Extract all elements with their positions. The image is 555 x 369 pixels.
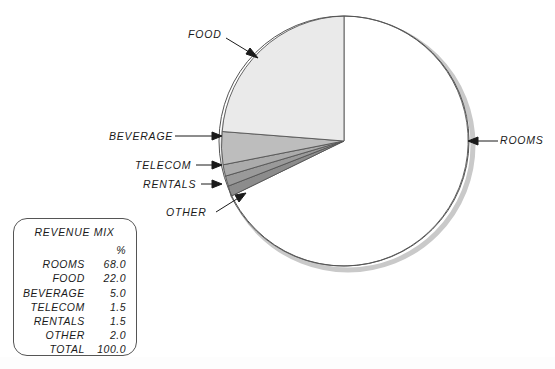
legend-header-blank [23, 243, 94, 258]
callout-label-other: OTHER [166, 206, 207, 218]
rentals-arrowhead [212, 180, 222, 188]
legend-row: RENTALS1.5 [23, 315, 126, 329]
legend-row: BEVERAGE5.0 [23, 286, 126, 300]
legend-value-total: 100.0 [94, 343, 126, 357]
pie-slice-food[interactable] [222, 16, 344, 141]
legend-row: FOOD22.0 [23, 272, 126, 286]
legend-label-food: FOOD [23, 272, 94, 286]
legend-label-rentals: RENTALS [23, 315, 94, 329]
legend-table: % ROOMS68.0FOOD22.0BEVERAGE5.0TELECOM1.5… [23, 243, 126, 357]
bottom-edge-artifact [0, 357, 555, 369]
legend-label-rooms: ROOMS [23, 258, 94, 272]
pie-slice-group [221, 16, 468, 266]
legend-label-total: TOTAL [23, 343, 94, 357]
legend-header-percent: % [94, 243, 126, 258]
legend-value-rentals: 1.5 [94, 315, 126, 329]
legend-label-beverage: BEVERAGE [23, 286, 94, 300]
callout-label-food: FOOD [188, 28, 222, 40]
legend-row: TELECOM1.5 [23, 300, 126, 314]
legend-row: OTHER2.0 [23, 329, 126, 343]
food-arrowhead [246, 48, 258, 58]
pie-chart-page: FOOD BEVERAGE TELECOM RENTALS OTHER ROOM… [0, 0, 555, 369]
legend-label-other: OTHER [23, 329, 94, 343]
legend-value-beverage: 5.0 [94, 286, 126, 300]
legend-row: ROOMS68.0 [23, 258, 126, 272]
legend-value-rooms: 68.0 [94, 258, 126, 272]
legend-label-telecom: TELECOM [23, 300, 94, 314]
callout-label-rentals: RENTALS [143, 178, 196, 190]
legend-title: REVENUE MIX [23, 226, 126, 238]
callout-label-telecom: TELECOM [135, 159, 191, 171]
callout-label-rooms: ROOMS [500, 134, 544, 146]
legend-header-row: % [23, 243, 126, 258]
legend-panel: REVENUE MIX % ROOMS68.0FOOD22.0BEVERAGE5… [13, 218, 137, 356]
legend-value-other: 2.0 [94, 329, 126, 343]
legend-value-telecom: 1.5 [94, 300, 126, 314]
beverage-arrowhead [212, 132, 222, 140]
legend-value-food: 22.0 [94, 272, 126, 286]
callout-label-beverage: BEVERAGE [109, 130, 173, 142]
legend-total-row: TOTAL100.0 [23, 343, 126, 357]
